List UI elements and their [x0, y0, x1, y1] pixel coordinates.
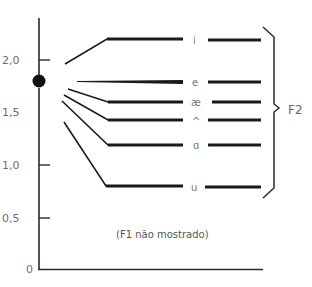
formant-track-a [62, 101, 261, 145]
vowel-label-a: ɑ [193, 140, 199, 151]
locus-point [33, 75, 46, 88]
formant-track-wedge [64, 95, 261, 120]
y-tick-label: 0 [26, 263, 33, 276]
formant-track-e [77, 80, 261, 84]
vowel-label-e: e [192, 77, 198, 88]
vowel-label-u: u [191, 182, 197, 193]
vowel-label-wedge: ^ [192, 116, 200, 127]
formant-track-i [65, 39, 261, 64]
y-tick-label: 1,5 [2, 106, 20, 119]
f2-brace [263, 27, 279, 198]
formant-transition-diagram: 2,0 1,5 1,0 0,5 0 i e æ ^ ɑ u [0, 0, 312, 287]
vowel-label-ae: æ [191, 97, 201, 108]
y-tick-label: 2,0 [2, 54, 20, 67]
y-tick-label: 1,0 [2, 159, 20, 172]
f2-label: F2 [288, 103, 303, 117]
vowel-label-i: i [193, 35, 196, 46]
y-tick-label: 0,5 [2, 212, 20, 225]
formant-track-ae [68, 89, 261, 102]
f1-note: (F1 não mostrado) [116, 229, 209, 240]
